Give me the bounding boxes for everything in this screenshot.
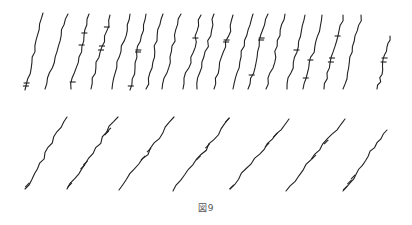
fiber-strand bbox=[324, 15, 343, 89]
fiber-strand bbox=[266, 14, 285, 89]
fiber-strand bbox=[214, 15, 233, 89]
fiber-strand bbox=[197, 14, 214, 89]
tick-mark bbox=[225, 118, 229, 122]
tick-mark bbox=[230, 185, 234, 189]
fiber-strand bbox=[25, 13, 43, 90]
fiber-strand bbox=[112, 14, 130, 89]
tick-mark bbox=[273, 133, 277, 137]
fiber-strand bbox=[183, 15, 201, 89]
fiber-strand bbox=[91, 15, 110, 89]
fiber-strand bbox=[233, 14, 253, 89]
fiber-strand bbox=[173, 118, 229, 191]
fiber-strand bbox=[287, 15, 305, 89]
lower-row bbox=[25, 117, 387, 191]
fiber-strand bbox=[146, 14, 163, 89]
fiber-strand bbox=[71, 14, 89, 89]
figure-caption: 図9 bbox=[0, 201, 412, 214]
fiber-strand bbox=[25, 117, 67, 189]
fiber-strand bbox=[343, 15, 361, 89]
fiber-strand bbox=[230, 119, 289, 189]
fiber-strand bbox=[45, 14, 68, 89]
tick-mark bbox=[141, 156, 145, 160]
figure-drawing bbox=[0, 0, 412, 225]
fiber-strand bbox=[162, 14, 181, 89]
fiber-strand bbox=[248, 14, 268, 89]
fiber-strand bbox=[119, 117, 174, 190]
upper-row bbox=[23, 13, 390, 90]
tick-mark bbox=[343, 186, 347, 190]
